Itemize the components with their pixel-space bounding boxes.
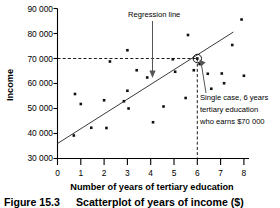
- data-point: [187, 34, 190, 37]
- data-point: [152, 121, 155, 124]
- figure-caption-text: Scatterplot of years of income ($): [76, 196, 244, 208]
- data-point: [206, 72, 209, 75]
- x-tick-label: 7: [218, 168, 223, 178]
- single-case-annotation-line-1: Single case, 6 years: [200, 93, 269, 102]
- data-point: [184, 97, 187, 100]
- data-point: [243, 74, 246, 77]
- data-point: [210, 87, 213, 90]
- single-case-annotation-line-2: tertiary education: [200, 105, 258, 114]
- data-point: [196, 57, 199, 60]
- data-point: [146, 76, 149, 79]
- data-point: [126, 89, 129, 92]
- data-point: [73, 134, 76, 137]
- data-point: [105, 127, 108, 130]
- x-tick-label: 6: [195, 168, 200, 178]
- figure-container: 90 000 80 000 70 000 60 000 50 000 40 00…: [0, 0, 280, 208]
- single-case-annotation-line-3: who earns $70 000: [199, 117, 265, 126]
- data-point: [123, 100, 126, 103]
- data-point: [74, 93, 77, 96]
- regression-line: [58, 32, 234, 144]
- data-point: [126, 49, 129, 52]
- data-point: [174, 70, 177, 73]
- x-tick-label: 8: [242, 168, 247, 178]
- x-axis-ticks: [58, 159, 244, 166]
- y-tick-label: 50 000: [27, 103, 53, 113]
- data-point: [172, 58, 175, 61]
- x-tick-label: 5: [172, 168, 177, 178]
- y-tick-label: 80 000: [27, 29, 53, 39]
- x-tick-label: 4: [148, 168, 153, 178]
- single-case-annotation: Single case, 6 years tertiary education …: [199, 60, 269, 127]
- x-axis-tick-labels: 0 1 2 3 4 5 6 7 8: [55, 168, 246, 178]
- data-point: [80, 103, 83, 106]
- x-tick-label: 1: [78, 168, 83, 178]
- y-tick-label: 70 000: [27, 54, 53, 64]
- y-tick-label: 40 000: [27, 128, 53, 138]
- regression-line-annotation-label: Regression line: [128, 10, 180, 19]
- regression-line-arrowhead: [149, 71, 155, 79]
- single-case-leader: [202, 65, 207, 93]
- x-tick-label: 0: [55, 168, 60, 178]
- data-point: [127, 107, 130, 110]
- y-tick-label: 60 000: [27, 78, 53, 88]
- single-case-arrowhead: [200, 60, 206, 67]
- data-point: [193, 69, 196, 72]
- data-point: [220, 72, 223, 75]
- scatterplot-chart: 90 000 80 000 70 000 60 000 50 000 40 00…: [0, 0, 280, 208]
- y-tick-label: 30 000: [27, 153, 53, 163]
- data-point: [135, 69, 138, 72]
- y-tick-label: 90 000: [27, 4, 53, 14]
- figure-caption-number: Figure 15.3: [4, 196, 60, 208]
- axis-lines: [58, 9, 250, 159]
- y-axis-ticks: [54, 9, 58, 159]
- x-axis-label: Number of years of tertiary education: [70, 182, 234, 192]
- data-point: [90, 126, 93, 129]
- data-point: [223, 82, 226, 85]
- y-axis-label: Income: [5, 69, 15, 101]
- x-tick-label: 2: [102, 168, 107, 178]
- data-point: [240, 18, 243, 21]
- data-point: [109, 60, 112, 63]
- data-point: [103, 99, 106, 102]
- x-tick-label: 3: [125, 168, 130, 178]
- y-axis-tick-labels: 90 000 80 000 70 000 60 000 50 000 40 00…: [27, 4, 53, 163]
- data-point: [162, 105, 165, 108]
- data-point: [231, 44, 234, 47]
